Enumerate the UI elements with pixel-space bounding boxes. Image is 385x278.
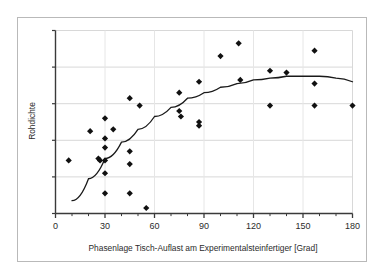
- data-point: [127, 148, 133, 154]
- x-tick-label: 0: [53, 221, 58, 231]
- data-point: [127, 95, 133, 101]
- data-point: [237, 77, 243, 83]
- x-axis-title: Phasenlage Tisch-Auflast am Experimental…: [88, 243, 317, 253]
- fit-curve: [72, 76, 353, 200]
- y-axis-title: Rohdichte: [27, 102, 37, 140]
- data-point: [102, 190, 108, 196]
- data-point: [102, 170, 108, 176]
- data-point: [178, 113, 184, 119]
- data-point: [196, 79, 202, 85]
- trend-line: [72, 76, 353, 200]
- x-tick-label: 60: [149, 221, 159, 231]
- data-point: [236, 40, 242, 46]
- grid-lines: [56, 31, 353, 214]
- data-point: [110, 126, 116, 132]
- data-point: [127, 161, 133, 167]
- x-axis-tick-labels: 0306090120150180: [53, 221, 360, 231]
- data-point: [196, 123, 202, 129]
- data-point: [176, 90, 182, 96]
- data-points: [66, 40, 356, 211]
- data-point: [267, 68, 273, 74]
- figure-root: 0306090120150180 Phasenlage Tisch-Auflas…: [0, 0, 385, 278]
- data-point: [66, 157, 72, 163]
- data-point: [176, 108, 182, 114]
- data-point: [311, 80, 317, 86]
- data-point: [127, 190, 133, 196]
- data-point: [283, 69, 289, 75]
- data-point: [311, 48, 317, 54]
- data-point: [87, 128, 93, 134]
- x-tick-label: 180: [345, 221, 360, 231]
- data-point: [102, 115, 108, 121]
- x-tick-label: 90: [199, 221, 209, 231]
- x-tick-label: 150: [295, 221, 310, 231]
- data-point: [102, 145, 108, 151]
- data-point: [143, 205, 149, 211]
- x-tick-label: 120: [246, 221, 261, 231]
- x-tick-label: 30: [100, 221, 110, 231]
- scatter-chart: 0306090120150180 Phasenlage Tisch-Auflas…: [0, 0, 385, 278]
- data-point: [217, 53, 223, 59]
